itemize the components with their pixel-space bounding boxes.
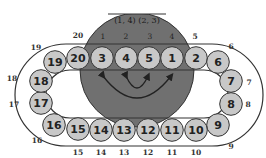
- position-label: 17: [9, 100, 19, 109]
- ball-label: 5: [145, 52, 153, 65]
- ball: 2: [185, 47, 208, 70]
- position-label: 6: [228, 42, 233, 51]
- ball: 8: [220, 93, 243, 116]
- ball: 3: [91, 47, 114, 70]
- ball-label: 17: [33, 97, 48, 110]
- ball-label: 19: [47, 56, 62, 69]
- ball: 15: [67, 118, 90, 141]
- position-label: 10: [191, 148, 201, 157]
- ball: 11: [161, 119, 184, 142]
- position-label: 12: [143, 148, 153, 157]
- ball: 20: [67, 47, 90, 70]
- ball-label: 12: [140, 124, 155, 137]
- ball: 5: [138, 47, 161, 70]
- ball: 18: [30, 70, 53, 93]
- ball-label: 6: [214, 56, 222, 69]
- ball-label: 1: [168, 52, 176, 65]
- ball: 6: [207, 51, 230, 74]
- disk-title: (1, 4) (2, 3): [114, 16, 160, 25]
- ball: 13: [113, 119, 136, 142]
- position-label: 13: [119, 148, 129, 157]
- ball-label: 4: [122, 52, 130, 65]
- position-label: 5: [192, 32, 197, 41]
- ball-label: 11: [164, 124, 179, 137]
- ball: 1: [161, 47, 184, 70]
- position-label: 16: [32, 136, 42, 145]
- ball: 14: [90, 119, 113, 142]
- ball-label: 7: [227, 75, 235, 88]
- disk-slot-label: 3: [148, 32, 153, 41]
- disk-slot-label: 4: [170, 32, 175, 41]
- ball-label: 2: [192, 52, 200, 65]
- position-label: 7: [246, 78, 251, 87]
- position-label: 19: [31, 43, 41, 52]
- ball: 17: [30, 92, 53, 115]
- position-label: 15: [73, 148, 83, 157]
- position-label: 14: [96, 148, 106, 157]
- ball-label: 20: [70, 52, 86, 65]
- ball: 10: [185, 119, 208, 142]
- ball: 12: [137, 119, 160, 142]
- ball: 7: [220, 70, 243, 93]
- ball-label: 18: [33, 75, 48, 88]
- ball: 16: [43, 114, 66, 137]
- ball-label: 9: [214, 119, 222, 132]
- position-label: 20: [73, 31, 83, 40]
- ball: 4: [115, 47, 138, 70]
- ball: 9: [207, 114, 230, 137]
- ball-label: 15: [70, 123, 85, 136]
- ball-label: 14: [93, 124, 109, 137]
- puzzle-diagram: (1, 4) (2, 3) 1 2 3 4 203451267891011121…: [0, 0, 266, 158]
- position-label: 8: [245, 100, 250, 109]
- ball-label: 10: [188, 124, 204, 137]
- position-label: 9: [228, 142, 233, 151]
- position-label: 11: [167, 148, 177, 157]
- disk-slot-label: 2: [124, 32, 129, 41]
- ball-label: 3: [98, 52, 106, 65]
- disk-slot-label: 1: [101, 32, 106, 41]
- ball-label: 16: [46, 119, 62, 132]
- ball: 19: [44, 51, 67, 74]
- position-label: 18: [7, 74, 17, 83]
- ball-label: 8: [227, 98, 235, 111]
- ball-label: 13: [116, 124, 131, 137]
